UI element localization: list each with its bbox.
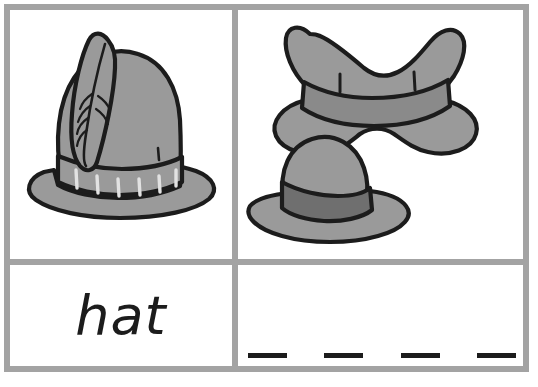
word-label: hat (10, 265, 232, 372)
alpine-hat-with-feather-illustration (10, 10, 232, 259)
worksheet-card: hat (0, 0, 538, 387)
cowboy-hat-illustration (274, 28, 476, 155)
bowler-sun-hat-illustration (248, 137, 408, 242)
word-cell: hat (10, 265, 232, 372)
blank-dash-4[interactable] (477, 353, 516, 358)
blank-dash-3[interactable] (401, 353, 440, 358)
two-hats-illustration (238, 10, 529, 259)
blank-dash-1[interactable] (248, 353, 287, 358)
blank-dash-row (248, 353, 516, 358)
picture-cell-two-hats (238, 10, 529, 259)
blank-dash-2[interactable] (324, 353, 363, 358)
blank-writing-cell[interactable] (238, 265, 529, 372)
picture-cell-single-hat (10, 10, 232, 259)
